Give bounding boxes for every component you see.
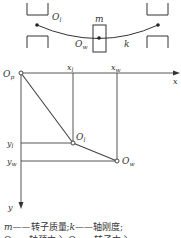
point-l: [71, 141, 75, 145]
caption-mass-symbol: m: [4, 222, 13, 232]
left-bearing-top: [27, 3, 48, 15]
left-journal-dot: [35, 23, 39, 27]
point-w-label: Ow: [122, 156, 135, 167]
op-ol-line: [21, 73, 73, 143]
origin-point: [19, 71, 23, 75]
y-axis-label: y: [7, 203, 13, 212]
schematic-center-label: Ow: [75, 39, 88, 50]
mass-label: m: [95, 14, 104, 24]
schematic-left-label: Ol: [52, 12, 61, 23]
origin-label: Op: [3, 69, 14, 81]
right-bearing-top: [147, 3, 168, 15]
caption-mass-text: ——转子质量;: [13, 222, 70, 232]
right-bearing-bottom: [147, 36, 168, 48]
x-axis-label: x: [173, 77, 178, 86]
stiffness-label: k: [124, 39, 129, 49]
ol-ow-line: [73, 143, 117, 161]
x-l-tick-label: xl: [67, 63, 74, 73]
y-axis-arrow-icon: [19, 202, 24, 209]
point-w: [115, 159, 119, 163]
caption-line-2: O——轴颈中心;O——转子中心: [4, 233, 130, 238]
point-l-label: Ol: [76, 132, 85, 143]
x-axis-arrow-icon: [173, 71, 180, 76]
shaft-curve: [37, 25, 158, 39]
rotor-diagram: Ol m Ow k Op x y xl xw y: [0, 0, 181, 238]
y-l-tick-label: yl: [6, 139, 14, 149]
right-journal-dot: [156, 23, 160, 27]
coordinate-lines: [21, 73, 176, 205]
caption-line-1: m——转子质量;k——轴刚度;: [4, 220, 123, 233]
left-bearing-bottom: [27, 36, 48, 48]
rotor-schematic: [27, 3, 168, 52]
y-w-tick-label: yw: [6, 157, 18, 167]
caption-stiffness-text: ——轴刚度;: [75, 222, 123, 232]
rotor-center-dot: [97, 36, 101, 40]
x-w-tick-label: xw: [111, 63, 122, 73]
